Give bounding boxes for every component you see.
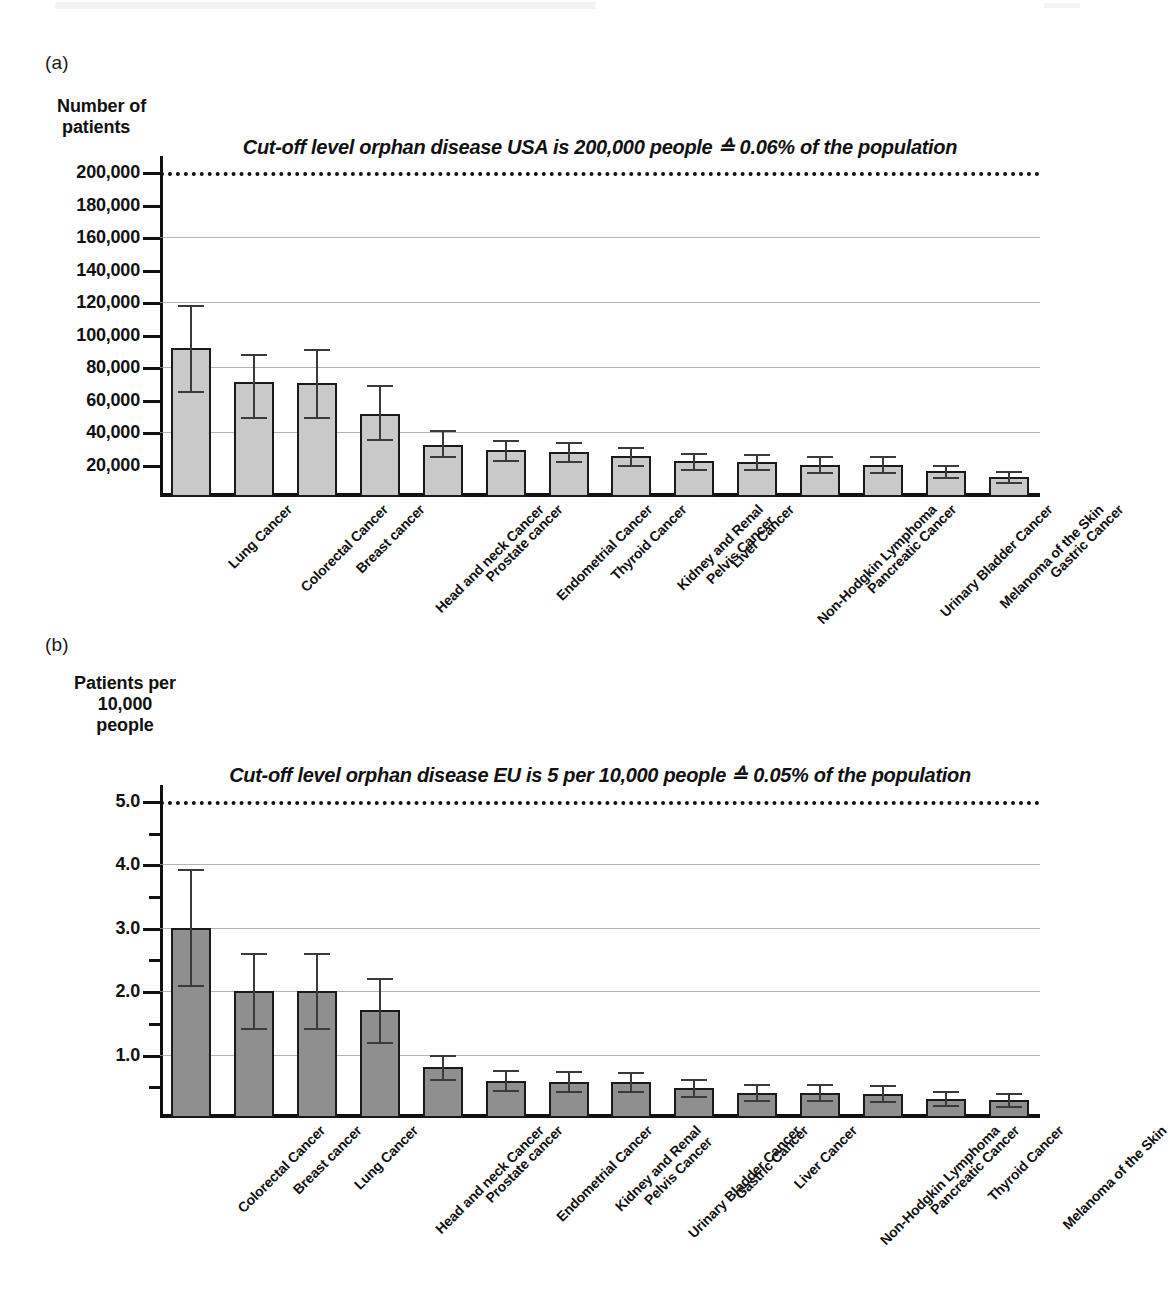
category-label: Non-Hodgkin Lymphoma — [815, 502, 941, 628]
bar-group — [851, 785, 914, 1118]
error-bar-cap-upper — [870, 456, 896, 458]
panel-b-cutoff-line — [160, 801, 1040, 805]
error-bar-cap-upper — [618, 447, 644, 449]
error-bar-cap-upper — [933, 465, 959, 467]
error-bar-cap-upper — [178, 305, 204, 307]
y-tick-minor — [149, 1023, 160, 1026]
panel-a-cutoff-label: Cut-off level orphan disease USA is 200,… — [160, 135, 1040, 159]
error-bar-cap-upper — [430, 1055, 456, 1057]
error-bar-line — [882, 1085, 884, 1101]
error-bar-cap-lower — [556, 461, 582, 463]
error-bar-cap-upper — [556, 1071, 582, 1073]
y-tick-label: 100,000 — [76, 324, 140, 345]
bar-group — [914, 156, 977, 497]
panel-a-y-axis-title-line1: Number of — [57, 96, 217, 117]
y-tick-major — [143, 991, 160, 994]
y-tick-label: 5.0 — [116, 790, 140, 811]
error-bar-cap-upper — [241, 953, 267, 955]
y-tick-label: 80,000 — [86, 357, 140, 378]
error-bar-cap-upper — [681, 453, 707, 455]
error-bar-cap-lower — [241, 417, 267, 419]
error-bar-cap-upper — [430, 430, 456, 432]
y-tick-major — [143, 335, 160, 338]
category-label: Non-Hodgkin Lymphoma — [877, 1123, 1003, 1249]
y-tick-minor — [149, 959, 160, 962]
error-bar-cap-upper — [367, 978, 393, 980]
panel-b-cutoff-label: Cut-off level orphan disease EU is 5 per… — [160, 763, 1040, 787]
panel-b-y-axis-title-line1: Patients per — [40, 673, 210, 694]
panel-b-y-axis-title: Patients per 10,000 people — [40, 673, 210, 737]
error-bar-cap-upper — [744, 1084, 770, 1086]
error-bar-line — [190, 305, 192, 391]
y-tick-label: 160,000 — [76, 227, 140, 248]
error-bar-line — [379, 978, 381, 1041]
y-tick-major — [143, 1055, 160, 1058]
y-tick-minor — [149, 896, 160, 899]
error-bar-cap-lower — [618, 1091, 644, 1093]
error-bar-cap-upper — [807, 1084, 833, 1086]
error-bar-cap-lower — [996, 1106, 1022, 1108]
y-tick-major — [143, 237, 160, 240]
error-bar-cap-lower — [367, 1042, 393, 1044]
y-tick-major — [143, 432, 160, 435]
error-bar-cap-upper — [996, 471, 1022, 473]
bar-group — [349, 156, 412, 497]
error-bar-line — [379, 385, 381, 439]
error-bar-cap-upper — [304, 349, 330, 351]
bar-group — [977, 785, 1040, 1118]
bar-group — [789, 785, 852, 1118]
error-bar-line — [253, 354, 255, 417]
bar-group — [286, 785, 349, 1118]
error-bar-line — [819, 1084, 821, 1100]
y-tick-label: 180,000 — [76, 194, 140, 215]
error-bar-cap-lower — [870, 1101, 896, 1103]
error-bar-line — [630, 447, 632, 465]
y-tick-label: 60,000 — [86, 389, 140, 410]
y-tick-major — [143, 801, 160, 804]
error-bar-cap-upper — [681, 1079, 707, 1081]
error-bar-cap-upper — [807, 456, 833, 458]
y-tick-major — [143, 270, 160, 273]
error-bar-line — [568, 1071, 570, 1091]
bar-group — [537, 785, 600, 1118]
error-bar-cap-lower — [304, 1028, 330, 1030]
y-tick-minor — [149, 833, 160, 836]
error-bar-line — [442, 1055, 444, 1079]
bar-group — [851, 156, 914, 497]
bar-group — [726, 785, 789, 1118]
error-bar-cap-lower — [744, 469, 770, 471]
bar-group — [663, 785, 726, 1118]
category-label: Head and neck Cancer — [433, 1123, 547, 1237]
bar-group — [474, 785, 537, 1118]
error-bar-line — [693, 1079, 695, 1096]
bar-group — [789, 156, 852, 497]
y-tick-label: 3.0 — [116, 917, 140, 938]
error-bar-cap-lower — [933, 477, 959, 479]
error-bar-cap-lower — [304, 417, 330, 419]
y-tick-label: 140,000 — [76, 259, 140, 280]
error-bar-cap-lower — [493, 460, 519, 462]
error-bar-cap-upper — [996, 1093, 1022, 1095]
y-tick-label: 1.0 — [116, 1044, 140, 1065]
chart-panel-b: (b) Patients per 10,000 people 5.04.03.0… — [0, 648, 1083, 1296]
y-tick-major — [143, 400, 160, 403]
error-bar-cap-lower — [556, 1091, 582, 1093]
panel-b-y-axis-title-line3: people — [40, 715, 210, 736]
error-bar-line — [253, 953, 255, 1028]
error-bar-line — [945, 1091, 947, 1105]
error-bar-cap-lower — [933, 1105, 959, 1107]
error-bar-cap-upper — [304, 953, 330, 955]
error-bar-cap-lower — [241, 1028, 267, 1030]
y-tick-major — [143, 864, 160, 867]
category-label: Melanoma of the Skin — [1060, 1123, 1170, 1233]
error-bar-line — [505, 440, 507, 459]
category-label: Lung Cancer — [226, 502, 296, 572]
error-bar-line — [505, 1070, 507, 1090]
error-bar-line — [630, 1072, 632, 1091]
bar-group — [286, 156, 349, 497]
error-bar-cap-lower — [430, 1079, 456, 1081]
category-label: Melanoma of the Skin — [997, 502, 1107, 612]
error-bar-line — [819, 456, 821, 472]
error-bar-cap-upper — [933, 1091, 959, 1093]
category-label: Head and neck Cancer — [433, 502, 547, 616]
